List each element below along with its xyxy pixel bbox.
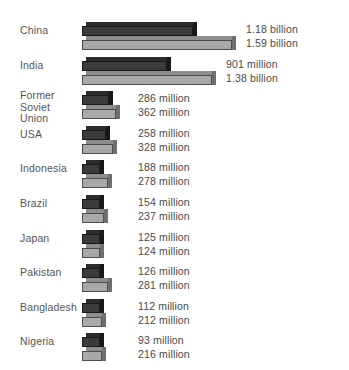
bar-projected xyxy=(82,209,108,223)
bar-projected-face xyxy=(82,317,102,327)
bar-projected-side xyxy=(108,278,112,292)
bar-projected xyxy=(82,244,104,258)
value-label-current: 154 million xyxy=(138,196,190,208)
bar-current-side xyxy=(100,160,104,174)
bar-current xyxy=(82,22,197,36)
category-label: USA xyxy=(20,129,78,141)
bar-projected xyxy=(82,140,117,154)
bar-projected-face xyxy=(82,282,108,292)
bar-current-side xyxy=(193,22,197,36)
value-label-projected: 1.59 billion xyxy=(246,37,298,49)
value-label-projected: 1.38 billion xyxy=(226,72,278,84)
bar-current-side xyxy=(100,195,104,209)
bar-projected xyxy=(82,278,112,292)
bar-current-face xyxy=(82,130,106,140)
value-label-current: 258 million xyxy=(138,127,190,139)
value-label-current: 125 million xyxy=(138,231,190,243)
bar-current xyxy=(82,126,110,140)
value-label-current: 112 million xyxy=(138,300,189,312)
bar-projected-face xyxy=(82,248,100,258)
bar-projected xyxy=(82,347,106,361)
bar-current-face xyxy=(82,95,109,105)
bar-current-side xyxy=(106,126,110,140)
value-label-projected: 212 million xyxy=(138,314,190,326)
category-label: Pakistan xyxy=(20,267,78,279)
value-label-current: 901 million xyxy=(226,58,278,70)
chart-row: China1.18 billion1.59 billion xyxy=(0,22,349,56)
bar-current-face xyxy=(82,61,167,71)
bar-current xyxy=(82,91,113,105)
bar-projected-side xyxy=(113,140,117,154)
bar-current-side xyxy=(167,57,171,71)
category-label: Nigeria xyxy=(20,336,78,348)
bar-projected-face xyxy=(82,40,232,50)
bar-projected-side xyxy=(212,71,216,85)
bar-projected-side xyxy=(100,244,104,258)
bar-projected-face xyxy=(82,178,108,188)
value-label-current: 188 million xyxy=(138,161,190,173)
bar-projected-side xyxy=(102,347,106,361)
value-label-projected: 237 million xyxy=(138,210,190,222)
chart-row: Indonesia188 million278 million xyxy=(0,160,349,194)
value-label-projected: 278 million xyxy=(138,175,190,187)
bar-projected-face xyxy=(82,144,113,154)
value-label-current: 93 million xyxy=(138,334,184,346)
bar-current-face xyxy=(82,164,100,174)
bar-projected-side xyxy=(108,174,112,188)
bar-projected xyxy=(82,71,216,85)
value-label-projected: 362 million xyxy=(138,106,190,118)
chart-row: FormerSoviet Union286 million362 million xyxy=(0,91,349,125)
bar-projected xyxy=(82,313,106,327)
bar-current-side xyxy=(100,333,104,347)
bar-projected-side xyxy=(116,105,120,119)
bar-projected xyxy=(82,105,120,119)
chart-row: Bangladesh112 million212 million xyxy=(0,299,349,333)
category-label: FormerSoviet Union xyxy=(20,90,78,125)
bar-current-face xyxy=(82,199,100,209)
bar-projected xyxy=(82,174,112,188)
bar-current xyxy=(82,195,104,209)
bar-current-face xyxy=(82,303,100,313)
category-label: Brazil xyxy=(20,198,78,210)
population-bar-chart: China1.18 billion1.59 billionIndia901 mi… xyxy=(0,0,349,370)
value-label-projected: 216 million xyxy=(138,348,190,360)
value-label-projected: 328 million xyxy=(138,141,190,153)
category-label: China xyxy=(20,25,78,37)
chart-row: Nigeria93 million216 million xyxy=(0,333,349,367)
chart-row: Pakistan126 million281 million xyxy=(0,264,349,298)
bar-current-face xyxy=(82,26,193,36)
bar-current-face xyxy=(82,268,100,278)
bar-current xyxy=(82,299,104,313)
category-label: India xyxy=(20,60,78,72)
value-label-current: 1.18 billion xyxy=(246,23,298,35)
chart-row: Brazil154 million237 million xyxy=(0,195,349,229)
bar-current-face xyxy=(82,337,100,347)
bar-current xyxy=(82,333,104,347)
value-label-projected: 281 million xyxy=(138,279,190,291)
bar-projected-side xyxy=(232,36,236,50)
bar-current-side xyxy=(109,91,113,105)
bar-projected-side xyxy=(104,209,108,223)
bar-projected-side xyxy=(102,313,106,327)
chart-row: Japan125 million124 million xyxy=(0,230,349,264)
chart-row: India901 million1.38 billion xyxy=(0,57,349,91)
bar-projected-face xyxy=(82,213,104,223)
bar-projected-face xyxy=(82,351,102,361)
bar-projected-face xyxy=(82,75,212,85)
value-label-current: 286 million xyxy=(138,92,190,104)
bar-current xyxy=(82,160,104,174)
value-label-current: 126 million xyxy=(138,265,190,277)
category-label: Bangladesh xyxy=(20,302,78,314)
bar-current-face xyxy=(82,234,100,244)
bar-current-side xyxy=(100,299,104,313)
bar-current-side xyxy=(100,264,104,278)
bar-current-side xyxy=(100,230,104,244)
bar-current xyxy=(82,264,104,278)
value-label-projected: 124 million xyxy=(138,245,190,257)
bar-current xyxy=(82,57,171,71)
bar-projected xyxy=(82,36,236,50)
category-label: Indonesia xyxy=(20,163,78,175)
bar-projected-face xyxy=(82,109,116,119)
bar-current xyxy=(82,230,104,244)
chart-row: USA258 million328 million xyxy=(0,126,349,160)
